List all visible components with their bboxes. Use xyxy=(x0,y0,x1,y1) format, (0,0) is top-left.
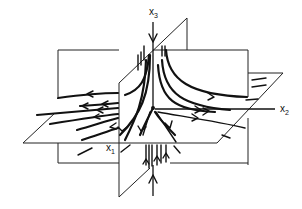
streamlines-bottom-inflow xyxy=(143,145,169,168)
x3-label: x3 xyxy=(149,6,158,19)
streamlines-upper-right xyxy=(158,50,266,138)
flow-diagram: x3 x2 x1 xyxy=(0,0,302,209)
x1-label: x1 xyxy=(106,142,115,155)
x2-label: x2 xyxy=(280,103,289,116)
